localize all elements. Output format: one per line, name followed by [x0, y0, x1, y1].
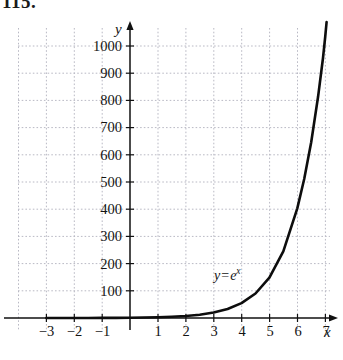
x-axis-name: x	[324, 324, 331, 341]
x-tick-label-minus1: −1	[82, 323, 123, 340]
curve-equation-exponent: x	[236, 266, 240, 276]
y-tick-label-100: 100	[48, 283, 122, 300]
plot-area: 1000 900 800 700 600 500 400 300 200 100…	[18, 28, 330, 330]
y-tick-label-400: 400	[48, 201, 122, 218]
y-tick-label-800: 800	[48, 92, 122, 109]
curve-equation-label: y=ex	[214, 266, 241, 284]
problem-number: 115.	[2, 0, 36, 13]
y-tick-label-600: 600	[48, 147, 122, 164]
y-tick-label-200: 200	[48, 256, 122, 273]
curve-equation-equals: =	[220, 268, 230, 283]
x-axis-arrowhead	[329, 314, 338, 321]
y-tick-label-300: 300	[48, 228, 122, 245]
y-tick-label-500: 500	[48, 174, 122, 191]
y-axis-name: y	[115, 21, 122, 38]
y-tick-label-900: 900	[48, 65, 122, 82]
exponential-function-figure: 115.	[0, 0, 343, 360]
y-tick-label-1000: 1000	[48, 38, 122, 55]
y-tick-label-700: 700	[48, 119, 122, 136]
